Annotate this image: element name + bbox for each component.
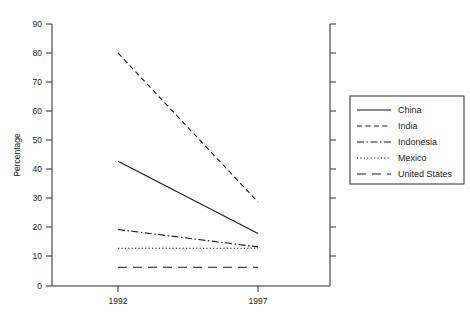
series-line-india xyxy=(118,53,258,202)
legend-item-mexico[interactable]: Mexico xyxy=(357,153,427,163)
right-axis-ticks xyxy=(330,24,336,256)
legend-label-united-states: United States xyxy=(398,169,453,179)
chart-canvas: 0 10 20 30 40 50 60 70 80 90 xyxy=(0,0,470,316)
y-tick-label-90: 90 xyxy=(33,19,43,29)
y-tick-label-30: 30 xyxy=(33,193,43,203)
y-tick-label-40: 40 xyxy=(33,164,43,174)
legend-label-india: India xyxy=(398,121,418,131)
x-axis-ticks: 1992 1997 xyxy=(109,286,268,306)
legend-item-china[interactable]: China xyxy=(357,105,422,115)
series-line-china xyxy=(118,161,258,233)
y-tick-label-20: 20 xyxy=(33,222,43,232)
x-tick-label-1997: 1997 xyxy=(249,296,268,306)
legend-item-united-states[interactable]: United States xyxy=(357,169,453,179)
series-line-indonesia xyxy=(118,230,258,247)
chart-legend: China India Indonesia Mexico United Stat… xyxy=(350,96,464,184)
y-tick-label-70: 70 xyxy=(33,77,43,87)
line-chart: 0 10 20 30 40 50 60 70 80 90 xyxy=(0,0,470,316)
axes xyxy=(52,24,330,286)
legend-item-indonesia[interactable]: Indonesia xyxy=(357,137,437,147)
y-tick-label-80: 80 xyxy=(33,48,43,58)
y-axis-ticks: 0 10 20 30 40 50 60 70 80 90 xyxy=(33,19,52,291)
y-axis-title: Percentage xyxy=(12,133,22,177)
legend-label-indonesia: Indonesia xyxy=(398,137,437,147)
y-tick-label-0: 0 xyxy=(37,281,42,291)
legend-label-china: China xyxy=(398,105,422,115)
series-group xyxy=(118,53,258,267)
y-tick-label-10: 10 xyxy=(33,251,43,261)
y-tick-label-60: 60 xyxy=(33,106,43,116)
x-tick-label-1992: 1992 xyxy=(109,296,128,306)
legend-label-mexico: Mexico xyxy=(398,153,427,163)
y-tick-label-50: 50 xyxy=(33,135,43,145)
legend-item-india[interactable]: India xyxy=(357,121,418,131)
